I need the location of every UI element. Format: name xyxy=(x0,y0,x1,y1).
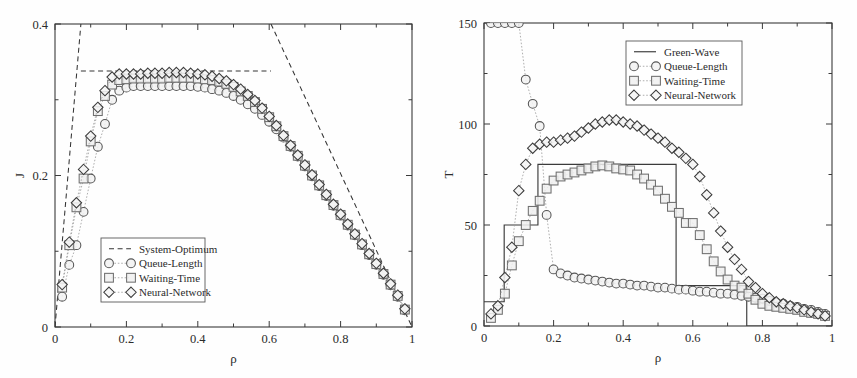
x-tick-label: 0 xyxy=(481,331,487,345)
marker-circle xyxy=(630,62,639,71)
y-tick-label: 50 xyxy=(465,219,478,233)
legend-label: Neural-Network xyxy=(139,286,212,298)
marker-square xyxy=(514,237,523,246)
marker-square xyxy=(630,76,639,85)
chart-panel-right: 00.20.40.60.81050100150ρTGreen-WaveQueue… xyxy=(428,0,857,378)
marker-circle xyxy=(101,120,110,129)
marker-diamond xyxy=(78,164,88,174)
marker-circle xyxy=(542,211,551,220)
x-axis-label: ρ xyxy=(655,350,662,365)
x-tick-label: 0.2 xyxy=(546,331,562,345)
chart-panel-left: 00.20.40.60.8100.20.4ρJSystem-OptimumQue… xyxy=(0,0,428,378)
y-tick-label: 0 xyxy=(42,321,48,335)
marker-circle xyxy=(105,259,114,268)
marker-circle xyxy=(521,75,530,84)
marker-circle xyxy=(514,19,523,28)
chart-right-svg: 00.20.40.60.81050100150ρTGreen-WaveQueue… xyxy=(428,0,857,378)
x-axis-label: ρ xyxy=(230,351,237,366)
marker-square xyxy=(528,206,537,215)
y-tick-label: 150 xyxy=(458,17,477,31)
chart-left-svg: 00.20.40.60.8100.20.4ρJSystem-OptimumQue… xyxy=(0,0,428,378)
y-axis-label: J xyxy=(12,173,27,178)
marker-square xyxy=(500,289,509,298)
marker-square xyxy=(652,76,661,85)
legend-label: Queue-Length xyxy=(139,257,203,269)
marker-square xyxy=(542,184,551,193)
y-tick-label: 100 xyxy=(458,118,477,132)
marker-circle xyxy=(652,62,661,71)
marker-square xyxy=(709,257,718,266)
marker-diamond xyxy=(500,272,510,282)
x-tick-label: 0.6 xyxy=(261,332,277,346)
x-tick-label: 1 xyxy=(829,331,835,345)
marker-square xyxy=(79,174,88,183)
marker-circle xyxy=(58,292,67,301)
x-tick-label: 0.8 xyxy=(333,332,349,346)
marker-square xyxy=(702,245,711,254)
legend: Green-WaveQueue-LengthWaiting-TimeNeural… xyxy=(626,41,742,105)
marker-diamond xyxy=(708,208,718,218)
marker-square xyxy=(535,196,544,205)
y-tick-label: 0.2 xyxy=(32,169,48,183)
marker-square xyxy=(674,208,683,217)
axes-group: 00.20.40.60.8100.20.4ρJ xyxy=(12,18,415,367)
marker-square xyxy=(654,186,663,195)
y-tick-label: 0.4 xyxy=(32,18,48,32)
marker-square xyxy=(105,273,114,282)
marker-square xyxy=(661,194,670,203)
x-tick-label: 1 xyxy=(409,332,415,346)
legend: System-OptimumQueue-LengthWaiting-TimeNe… xyxy=(101,238,218,302)
marker-square xyxy=(716,267,725,276)
marker-circle xyxy=(127,259,136,268)
x-tick-label: 0.6 xyxy=(685,331,701,345)
marker-diamond xyxy=(514,185,524,195)
marker-diamond xyxy=(729,254,739,264)
x-tick-label: 0.4 xyxy=(615,331,631,345)
figure-container: 00.20.40.60.8100.20.4ρJSystem-OptimumQue… xyxy=(0,0,857,378)
x-tick-label: 0.8 xyxy=(755,331,771,345)
legend-label: Waiting-Time xyxy=(664,75,725,87)
marker-diamond xyxy=(736,264,746,274)
marker-circle xyxy=(65,260,74,269)
marker-square xyxy=(695,231,704,240)
marker-diamond xyxy=(722,242,732,252)
legend-label: Neural-Network xyxy=(664,89,737,101)
marker-circle xyxy=(535,122,544,131)
x-tick-label: 0.4 xyxy=(190,332,206,346)
y-tick-label: 0 xyxy=(471,320,477,334)
legend-label: Queue-Length xyxy=(664,60,728,72)
marker-square xyxy=(521,221,530,230)
legend-label: System-Optimum xyxy=(139,243,218,255)
x-tick-label: 0.2 xyxy=(119,332,135,346)
x-tick-label: 0 xyxy=(52,332,58,346)
marker-diamond xyxy=(715,226,725,236)
marker-diamond xyxy=(695,171,705,181)
legend-label: Green-Wave xyxy=(664,46,719,58)
marker-circle xyxy=(528,99,537,108)
marker-square xyxy=(127,273,136,282)
legend-label: Waiting-Time xyxy=(139,272,200,284)
marker-diamond xyxy=(702,190,712,200)
marker-diamond xyxy=(521,159,531,169)
marker-square xyxy=(688,219,697,228)
y-axis-label: T xyxy=(441,170,456,178)
